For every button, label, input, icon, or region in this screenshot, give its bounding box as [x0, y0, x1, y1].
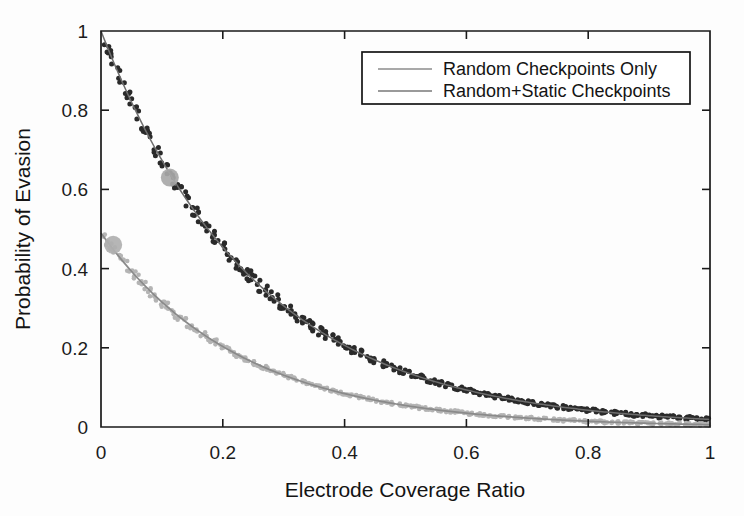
y-tick-label-3: 0.6 — [62, 179, 88, 200]
data-point — [257, 278, 262, 283]
data-point — [359, 348, 364, 353]
data-point — [288, 304, 293, 309]
x-tick-label-5: 1 — [705, 442, 716, 463]
legend-label-random-checkpoints-only: Random Checkpoints Only — [443, 59, 657, 79]
data-point — [159, 304, 164, 309]
data-point — [244, 276, 249, 281]
x-tick-label-1: 0.2 — [210, 442, 236, 463]
y-tick-label-1: 0.2 — [62, 338, 88, 359]
data-point — [190, 213, 195, 218]
data-point — [183, 189, 188, 194]
y-tick-label-0: 0 — [77, 417, 88, 438]
y-axis-title: Probability of Evasion — [11, 128, 34, 330]
data-point — [336, 335, 341, 340]
x-tick-label-4: 0.8 — [575, 442, 601, 463]
data-point — [318, 325, 323, 330]
data-point — [316, 332, 321, 337]
data-point — [227, 258, 232, 263]
lower-curve-highlight — [104, 236, 122, 254]
legend-label-random-static-checkpoints: Random+Static Checkpoints — [443, 81, 671, 101]
data-point — [184, 203, 189, 208]
data-point — [275, 292, 280, 297]
figure-container: 00.20.40.60.81 00.20.40.60.81 Electrode … — [0, 0, 744, 516]
x-tick-label-3: 0.6 — [453, 442, 479, 463]
data-point — [330, 332, 335, 337]
data-point — [156, 145, 161, 150]
x-axis-title: Electrode Coverage Ratio — [285, 478, 525, 501]
x-tick-label-2: 0.4 — [331, 442, 358, 463]
chart-legend: Random Checkpoints Only Random+Static Ch… — [362, 52, 690, 104]
y-tick-label-2: 0.4 — [62, 259, 89, 280]
data-point — [148, 294, 153, 299]
y-tick-label-4: 0.8 — [62, 100, 88, 121]
chart-canvas: 00.20.40.60.81 00.20.40.60.81 Electrode … — [0, 0, 744, 516]
upper-curve-highlight — [161, 169, 179, 187]
x-tick-label-0: 0 — [96, 442, 107, 463]
y-tick-label-5: 1 — [77, 21, 88, 42]
data-point — [256, 289, 261, 294]
